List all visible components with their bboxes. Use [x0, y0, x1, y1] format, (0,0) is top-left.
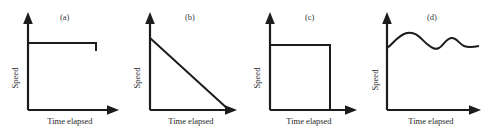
- speed-curve-c: [270, 45, 330, 110]
- y-axis-label-b: Speed: [132, 67, 142, 89]
- x-axis-label-a: Time elapsed: [47, 116, 93, 126]
- x-axis-label-d: Time elapsed: [408, 116, 454, 126]
- x-axis-arrow-icon-a: [107, 105, 119, 115]
- panel-tag-a: (a): [60, 12, 70, 22]
- speed-curve-a: [28, 43, 96, 51]
- panel-a: (a) Time elapsed Speed: [0, 0, 125, 138]
- y-axis-arrow-icon-c: [265, 12, 275, 24]
- y-axis-arrow-icon-a: [23, 12, 33, 24]
- speed-curve-b: [150, 38, 229, 110]
- y-axis-label-a: Speed: [10, 67, 20, 89]
- panel-d: (d) Time elapsed Speed: [365, 0, 493, 138]
- y-axis-arrow-icon-b: [145, 12, 155, 24]
- panel-tag-d: (d): [427, 12, 437, 22]
- x-axis-arrow-icon-c: [345, 105, 357, 115]
- panel-tag-c: (c): [305, 12, 315, 22]
- speed-vs-time-graph-figure: (a) Time elapsed Speed (b) Time elapsed …: [0, 0, 493, 138]
- speed-curve-d: [387, 33, 479, 49]
- y-axis-label-c: Speed: [252, 67, 262, 89]
- x-axis-arrow-icon-d: [469, 105, 481, 115]
- y-axis-label-d: Speed: [370, 69, 380, 91]
- panel-c: (c) Time elapsed Speed: [245, 0, 365, 138]
- y-axis-arrow-icon-d: [382, 12, 392, 24]
- x-axis-label-b: Time elapsed: [168, 116, 214, 126]
- x-axis-label-c: Time elapsed: [286, 116, 332, 126]
- panel-b: (b) Time elapsed Speed: [125, 0, 245, 138]
- panel-tag-b: (b): [185, 12, 195, 22]
- x-axis-arrow-icon-b: [225, 105, 237, 115]
